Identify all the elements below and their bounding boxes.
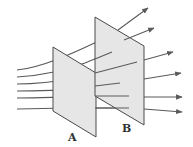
field-line-6-arrow bbox=[144, 109, 182, 112]
plane-a bbox=[53, 47, 96, 137]
field-line-4-arrow bbox=[144, 73, 181, 79]
plane-b-label: B bbox=[122, 122, 131, 135]
field-line-3-arrow bbox=[144, 52, 173, 60]
field-diagram: A B bbox=[0, 0, 193, 147]
plane-a-label: A bbox=[67, 131, 77, 144]
field-line-2-arrow bbox=[124, 28, 154, 40]
field-line-1-arrow bbox=[118, 8, 148, 30]
